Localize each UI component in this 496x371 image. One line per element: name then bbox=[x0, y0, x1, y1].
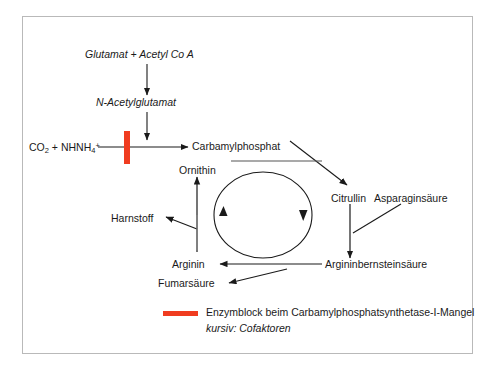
node-argininbernsteinsaeure: Argininbernsteinsäure bbox=[325, 258, 427, 270]
co2-label: CO bbox=[29, 141, 45, 153]
legend-enzyme-block-swatch bbox=[163, 311, 198, 316]
node-fumarsaeure: Fumarsäure bbox=[158, 277, 215, 289]
node-arginin: Arginin bbox=[172, 258, 205, 270]
legend-enzyme-block-label: Enzymblock beim Carbamylphosphatsyntheta… bbox=[206, 305, 474, 320]
node-carbamylphosphat: Carbamylphosphat bbox=[192, 140, 280, 152]
plus-label: + NH bbox=[49, 141, 76, 153]
node-citrullin: Citrullin bbox=[331, 192, 366, 204]
enzyme-block-bar bbox=[124, 131, 130, 164]
node-glutamat-acetyl-coa: Glutamat + Acetyl Co A bbox=[85, 48, 194, 60]
node-ornithin: Ornithin bbox=[179, 164, 216, 176]
node-asparaginsaeure: Asparaginsäure bbox=[374, 192, 448, 204]
nh4-label: NH bbox=[76, 141, 91, 153]
nh4-superscript: + bbox=[95, 141, 99, 150]
node-co2-nh4: CO2 + NHNH4+ bbox=[29, 140, 100, 157]
node-n-acetylglutamat: N-Acetylglutamat bbox=[96, 96, 176, 108]
urea-cycle-diagram: Glutamat + Acetyl Co A N-Acetylglutamat … bbox=[0, 0, 496, 371]
legend-cofactor-note: kursiv: Cofaktoren bbox=[206, 321, 291, 336]
node-harnstoff: Harnstoff bbox=[111, 212, 153, 224]
diagram-frame bbox=[22, 16, 473, 354]
